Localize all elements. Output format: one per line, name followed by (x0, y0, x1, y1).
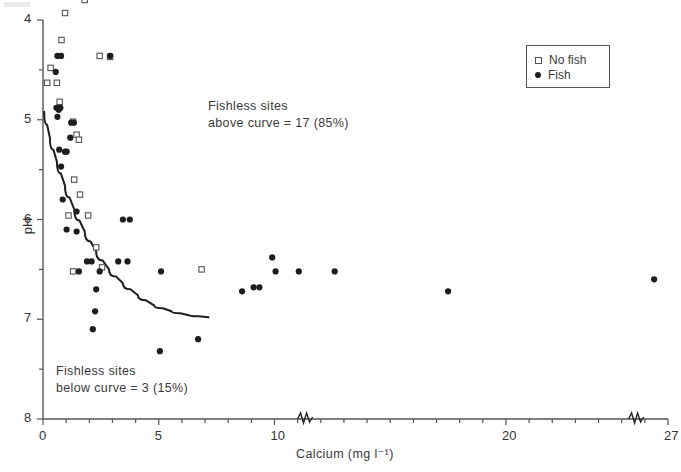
data-point-no-fish (82, 0, 87, 3)
data-point-no-fish (76, 137, 81, 142)
data-point-no-fish (97, 53, 102, 58)
data-point-no-fish (72, 177, 77, 182)
x-tick-label-0: 0 (39, 428, 46, 443)
data-point-fish (92, 308, 98, 314)
data-point-fish (76, 268, 82, 274)
data-point-fish (60, 196, 66, 202)
data-point-no-fish (94, 245, 99, 250)
data-point-fish (54, 114, 60, 120)
y-tick-label-7: 7 (24, 310, 31, 325)
legend-item-no-fish: No fish (535, 53, 586, 67)
data-point-fish (651, 276, 657, 282)
data-point-no-fish (70, 269, 75, 274)
data-point-fish (58, 53, 64, 59)
legend-item-fish: Fish (535, 68, 571, 82)
x-tick-label-10: 10 (270, 428, 284, 443)
data-point-no-fish (85, 213, 90, 218)
data-point-fish (273, 268, 279, 274)
y-tick-label-8: 8 (24, 410, 31, 425)
data-point-fish (74, 208, 80, 214)
annotation-below-curve: Fishless sites below curve = 3 (15%) (56, 363, 188, 397)
y-tick-label-6: 6 (24, 211, 31, 226)
data-point-fish (251, 284, 257, 290)
legend: No fish Fish (526, 45, 610, 88)
data-point-fish (124, 258, 130, 264)
x-tick-label-5: 5 (155, 428, 162, 443)
data-point-fish (57, 105, 63, 111)
filled-circle-icon (535, 72, 541, 78)
legend-label-fish: Fish (548, 68, 571, 82)
y-axis-label: pH (20, 196, 35, 256)
x-axis-label: Calcium (mg l⁻¹) (296, 446, 394, 461)
data-point-fish (256, 284, 262, 290)
data-point-no-fish (199, 267, 204, 272)
data-point-fish (195, 336, 201, 342)
data-point-fish (64, 226, 70, 232)
data-point-no-fish (57, 99, 62, 104)
x-tick-label-27: 27 (664, 428, 678, 443)
data-point-fish (93, 286, 99, 292)
data-point-no-fish (45, 80, 50, 85)
axis-break-0 (298, 413, 313, 423)
annotation-above-curve: Fishless sites above curve = 17 (85%) (208, 98, 349, 132)
open-square-icon (535, 57, 542, 64)
data-point-no-fish (77, 192, 82, 197)
legend-label-no-fish: No fish (549, 53, 586, 67)
data-point-fish (71, 120, 77, 126)
data-point-fish (296, 268, 302, 274)
data-point-fish (107, 53, 113, 59)
axis-break-1 (629, 413, 644, 423)
data-point-fish (115, 258, 121, 264)
data-point-fish (58, 164, 64, 170)
data-point-fish (127, 216, 133, 222)
data-point-fish (56, 147, 62, 153)
data-point-fish (158, 268, 164, 274)
data-point-fish (332, 268, 338, 274)
data-point-fish (53, 69, 59, 75)
y-tick-label-5: 5 (24, 111, 31, 126)
data-point-fish (445, 288, 451, 294)
series-fish (53, 53, 658, 355)
data-point-fish (74, 228, 80, 234)
y-tick-label-4: 4 (24, 11, 31, 26)
data-point-fish (89, 258, 95, 264)
data-point-no-fish (66, 213, 71, 218)
data-point-fish (64, 149, 70, 155)
data-point-fish (157, 348, 163, 354)
data-point-fish (90, 326, 96, 332)
x-tick-label-20: 20 (502, 428, 516, 443)
data-point-fish (239, 288, 245, 294)
data-point-no-fish (54, 80, 59, 85)
figure-container: pH Calcium (mg l⁻¹) Fishless sites above… (0, 0, 681, 472)
data-point-no-fish (62, 10, 67, 15)
data-point-no-fish (48, 65, 53, 70)
data-point-fish (120, 216, 126, 222)
data-point-fish (67, 135, 73, 141)
data-point-no-fish (59, 37, 64, 42)
data-point-fish (269, 254, 275, 260)
data-point-fish (97, 268, 103, 274)
